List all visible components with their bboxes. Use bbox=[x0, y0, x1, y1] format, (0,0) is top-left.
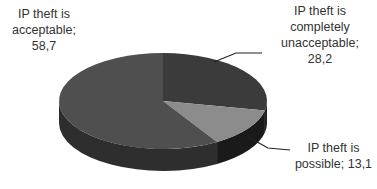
data-label-possible: IP theft is possible; 13,1 bbox=[290, 140, 377, 172]
label-line: IP theft is bbox=[263, 3, 377, 19]
label-value: 58,7 bbox=[2, 38, 86, 54]
label-line: completely bbox=[263, 19, 377, 35]
label-value: 28,2 bbox=[263, 51, 377, 67]
leader-line bbox=[214, 53, 262, 62]
data-label-acceptable: IP theft is acceptable; 58,7 bbox=[2, 6, 86, 54]
label-line: possible; 13,1 bbox=[290, 156, 377, 172]
label-line: unacceptable; bbox=[263, 35, 377, 51]
data-label-completely-unacceptable: IP theft is completely unacceptable; 28,… bbox=[263, 3, 377, 67]
label-line: acceptable; bbox=[2, 22, 86, 38]
label-line: IP theft is bbox=[2, 6, 86, 22]
label-line: IP theft is bbox=[290, 140, 377, 156]
